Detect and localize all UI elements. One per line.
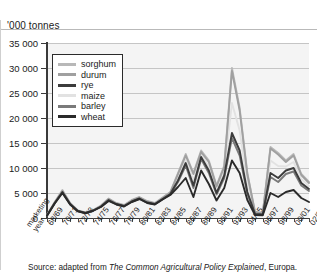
y-axis-tick-label: 5 000	[14, 188, 38, 199]
source-caption: Source: adapted from The Common Agricult…	[28, 263, 297, 272]
legend-swatch-icon	[58, 115, 76, 118]
y-axis-tick-label: 15 000	[9, 138, 38, 149]
y-axis-tick-label: 20 000	[9, 113, 38, 124]
legend-swatch-icon	[58, 73, 76, 76]
figure-container: '000 tonnes 35 00030 00025 00020 00015 0…	[0, 0, 317, 280]
legend-item-rye: rye	[58, 80, 116, 91]
legend-swatch-icon	[58, 63, 76, 66]
legend-item-label: sorghum	[81, 59, 116, 69]
legend-item-barley: barley	[58, 101, 116, 112]
legend-item-maize: maize	[58, 91, 116, 102]
legend-item-label: wheat	[81, 112, 105, 122]
legend-item-label: maize	[81, 91, 105, 101]
chart-legend: sorghumdurumryemaizebarleywheat	[52, 54, 123, 127]
legend-item-label: durum	[81, 70, 107, 80]
legend-item-wheat: wheat	[58, 112, 116, 123]
legend-swatch-icon	[58, 94, 76, 97]
y-axis-tick-label: 25 000	[9, 88, 38, 99]
legend-item-sorghum: sorghum	[58, 59, 116, 70]
y-axis-tick-label: 35 000	[9, 38, 38, 49]
y-axis-tick-label: 30 000	[9, 63, 38, 74]
source-suffix: , Europa.	[264, 263, 297, 272]
legend-swatch-icon	[58, 105, 76, 108]
legend-item-durum: durum	[58, 70, 116, 81]
legend-item-label: rye	[81, 80, 94, 90]
chart-plot-area: 35 00030 00025 00020 00015 00010 0005 00…	[0, 0, 317, 258]
legend-swatch-icon	[58, 84, 76, 87]
legend-item-label: barley	[81, 101, 106, 111]
source-title: The Common Agricultural Policy Explained	[109, 263, 264, 272]
y-axis-tick-label: 10 000	[9, 163, 38, 174]
source-prefix: Source: adapted from	[28, 263, 109, 272]
